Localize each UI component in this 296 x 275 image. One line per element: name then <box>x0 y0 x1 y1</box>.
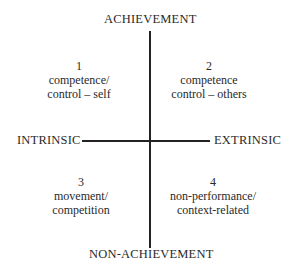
horizontal-axis-line <box>82 140 210 142</box>
quadrant-text-line2: control – self <box>19 87 139 101</box>
axis-label-extrinsic: EXTRINSIC <box>214 133 281 148</box>
quadrant-number: 2 <box>149 59 269 73</box>
quadrant-number: 1 <box>19 59 139 73</box>
quadrant-text-line2: control – others <box>149 87 269 101</box>
axis-label-intrinsic: INTRINSIC <box>17 133 81 148</box>
quadrant-text-line1: non-performance/ <box>153 189 273 203</box>
quadrant-number: 3 <box>21 175 141 189</box>
quadrant-text-line1: competence <box>149 73 269 87</box>
quadrant-2: 2 competence control – others <box>149 59 269 101</box>
quadrant-1: 1 competence/ control – self <box>19 59 139 101</box>
axis-label-achievement: ACHIEVEMENT <box>104 12 196 27</box>
quadrant-number: 4 <box>153 175 273 189</box>
quadrant-text-line1: movement/ <box>21 189 141 203</box>
quadrant-4: 4 non-performance/ context-related <box>153 175 273 217</box>
quadrant-text-line1: competence/ <box>19 73 139 87</box>
quadrant-text-line2: competition <box>21 203 141 217</box>
quadrant-text-line2: context-related <box>153 203 273 217</box>
quadrant-3: 3 movement/ competition <box>21 175 141 217</box>
axis-label-non-achievement: NON-ACHIEVEMENT <box>89 247 214 262</box>
